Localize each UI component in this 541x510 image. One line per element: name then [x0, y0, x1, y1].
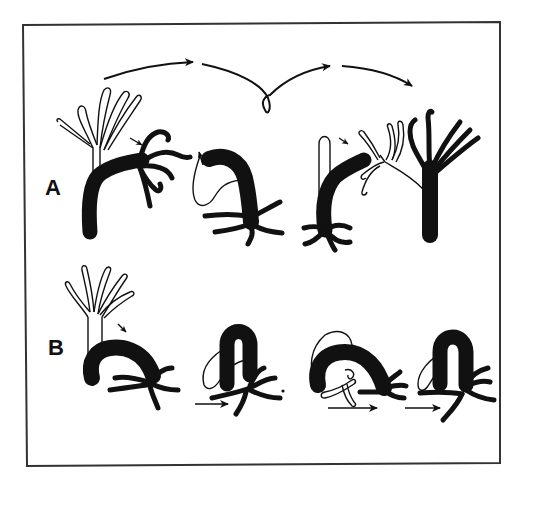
figure-canvas: [0, 0, 541, 510]
hydra-b2: [195, 332, 280, 415]
panel-label-b: B: [48, 337, 64, 359]
hydra-b1: [65, 266, 178, 408]
hydra-b3: [311, 332, 406, 408]
hydra-a4: [359, 111, 478, 235]
panel-label-a: A: [45, 177, 61, 199]
hydra-a3: [304, 137, 364, 251]
sequence-arrows-a: [104, 62, 412, 112]
hydra-a1: [57, 88, 190, 232]
hydra-b4: [405, 337, 494, 420]
scan-speck: [281, 389, 284, 392]
hydra-a2: [193, 152, 282, 244]
